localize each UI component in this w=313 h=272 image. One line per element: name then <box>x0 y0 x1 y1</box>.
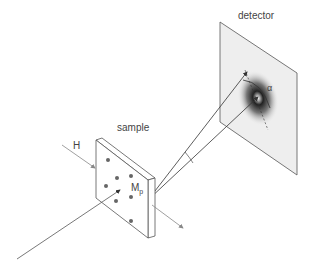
diagram-canvas <box>0 0 313 272</box>
sample-slab <box>96 138 155 238</box>
sample-label: sample <box>117 122 149 133</box>
sans-diagram: detector sample H Mp α <box>0 0 313 272</box>
detector-plane <box>220 22 297 175</box>
angle-label: α <box>267 83 272 93</box>
field-arrow-out <box>152 205 183 228</box>
detector-label: detector <box>238 10 274 21</box>
field-label: H <box>73 140 80 151</box>
incident-beam <box>17 190 120 259</box>
magnetization-label: Mp <box>131 182 143 195</box>
